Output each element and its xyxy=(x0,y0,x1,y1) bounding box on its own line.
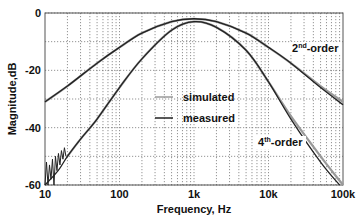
x-tick-label: 100 xyxy=(110,188,128,200)
annotation-2nd-order: 2nd-order xyxy=(290,42,342,55)
y-tick-label: 0 xyxy=(35,7,41,19)
x-tick-label: 10k xyxy=(259,188,278,200)
measured-noise xyxy=(45,148,66,185)
x-tick-label: 100k xyxy=(331,188,356,200)
y-axis-label: Magnitude,dB xyxy=(6,63,18,136)
y-axis-ticks: 0-20-40-60 xyxy=(25,7,41,191)
annotation-4th-order: 4th-order xyxy=(256,136,306,149)
y-tick-label: -40 xyxy=(25,122,41,134)
x-axis-label: Frequency, Hz xyxy=(157,203,232,215)
x-axis-ticks: 101001k10k100k xyxy=(39,188,356,200)
y-tick-label: -20 xyxy=(25,64,41,76)
legend: simulated measured xyxy=(155,91,235,124)
frequency-response-chart: 0-20-40-60 101001k10k100k Frequency, Hz … xyxy=(0,0,360,224)
legend-label-simulated: simulated xyxy=(183,91,234,103)
legend-label-measured: measured xyxy=(183,112,235,124)
x-tick-label: 1k xyxy=(188,188,201,200)
x-tick-label: 10 xyxy=(39,188,51,200)
